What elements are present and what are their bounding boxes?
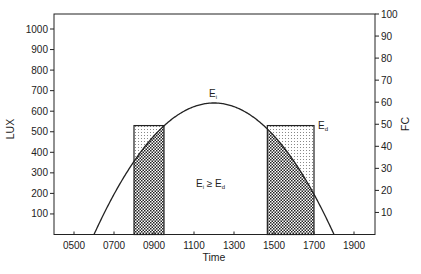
- y-left-tick-label: 1000: [26, 24, 49, 35]
- y-left-tick-label: 300: [31, 167, 48, 178]
- x-tick-label: 1900: [343, 240, 366, 251]
- y-left-tick-label: 700: [31, 85, 48, 96]
- ei-ge-ed-label: Ei ≥ Ed: [196, 178, 225, 190]
- x-tick-label: 0900: [143, 240, 166, 251]
- y-left-tick-label: 600: [31, 106, 48, 117]
- y-left-tick-label: 400: [31, 147, 48, 158]
- plot-frame: [54, 14, 375, 235]
- ei-curve-label: Ei: [209, 88, 217, 100]
- y-right-tick-label: 60: [381, 97, 393, 108]
- y-left-tick-label: 100: [31, 208, 48, 219]
- daylight-illuminance-chart: 05000700090011001300150017001900 1002003…: [0, 0, 421, 274]
- y-right-axis-title: FC: [399, 117, 411, 131]
- y-right-axis-ticks: 102030405060708090100: [375, 9, 398, 218]
- y-left-tick-label: 500: [31, 126, 48, 137]
- x-tick-label: 0500: [63, 240, 86, 251]
- y-right-tick-label: 20: [381, 185, 393, 196]
- y-right-tick-label: 10: [381, 207, 393, 218]
- y-left-tick-label: 900: [31, 44, 48, 55]
- y-right-tick-label: 90: [381, 31, 393, 42]
- x-tick-label: 0700: [103, 240, 126, 251]
- y-right-tick-label: 80: [381, 53, 393, 64]
- design-illuminance-rectangles: [134, 126, 314, 235]
- y-left-axis-ticks: 1002003004005006007008009001000: [26, 24, 54, 220]
- x-axis-title: Time: [203, 251, 226, 263]
- y-left-axis-title: LUX: [4, 119, 16, 139]
- y-right-tick-label: 100: [381, 9, 398, 20]
- ed-level-label: Ed: [318, 120, 328, 132]
- x-tick-label: 1100: [183, 240, 205, 251]
- x-tick-label: 1700: [303, 240, 326, 251]
- y-left-tick-label: 200: [31, 188, 48, 199]
- y-right-tick-label: 40: [381, 141, 393, 152]
- x-tick-label: 1500: [263, 240, 286, 251]
- x-tick-label: 1300: [223, 240, 246, 251]
- y-left-tick-label: 800: [31, 65, 48, 76]
- y-right-tick-label: 70: [381, 75, 393, 86]
- y-right-tick-label: 50: [381, 119, 393, 130]
- y-right-tick-label: 30: [381, 163, 393, 174]
